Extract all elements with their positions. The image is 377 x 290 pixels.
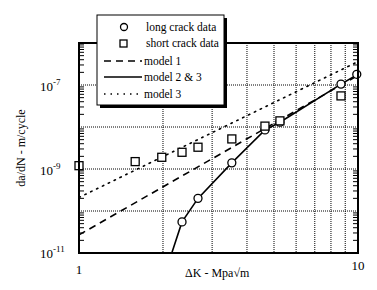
long-crack-point (337, 80, 345, 88)
long-crack-point (228, 159, 236, 167)
legend: long crack data short crack data model 1… (97, 15, 227, 108)
legend-square-icon (120, 40, 127, 47)
short-crack-point (228, 135, 236, 143)
y-tick-label-1e-9: 10-9 (40, 161, 61, 178)
y-tick-label-1e-11: 10-11 (40, 244, 65, 261)
long-crack-point (353, 70, 361, 78)
short-crack-point (158, 153, 166, 161)
short-crack-point (337, 92, 345, 100)
legend-label-short-crack: short crack data (146, 37, 219, 49)
legend-label-model-2-3: model 2 & 3 (144, 71, 202, 83)
x-tick-label-10: 10 (352, 258, 365, 273)
legend-circle-icon (121, 24, 128, 31)
y-axis-title: da/dN - m/cycle (14, 109, 28, 186)
x-tick-label-1: 1 (76, 262, 83, 277)
long-crack-point (178, 218, 186, 226)
legend-label-model-3: model 3 (144, 88, 182, 100)
legend-label-long-crack: long crack data (146, 21, 216, 34)
long-crack-point (194, 194, 202, 202)
short-crack-point (276, 117, 284, 125)
short-crack-point (194, 143, 202, 151)
legend-label-model-1: model 1 (144, 55, 182, 67)
short-crack-point (131, 158, 139, 166)
short-crack-point (178, 148, 186, 156)
x-axis-title: ΔK - Mpa√m (185, 266, 250, 280)
short-crack-point (261, 122, 269, 130)
chart-canvas: 10-7 10-9 10-11 1 10 ΔK - Mpa√m da/dN - … (0, 0, 377, 290)
y-tick-label-1e-7: 10-7 (40, 77, 61, 94)
